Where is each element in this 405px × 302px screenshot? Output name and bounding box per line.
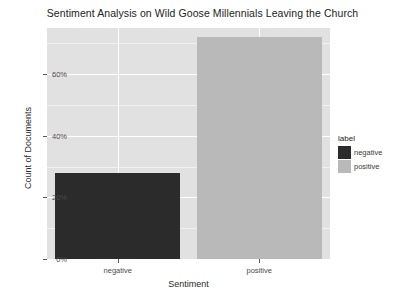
legend-swatch-negative [338, 146, 351, 159]
legend-item-positive[interactable]: positive [338, 159, 382, 173]
bar-positive[interactable] [197, 37, 322, 259]
chart-title: Sentiment Analysis on Wild Goose Millenn… [0, 7, 405, 19]
x-axis-title: Sentiment [47, 279, 330, 289]
legend-entries: negativepositive [338, 145, 382, 173]
y-tick-label: 20% [52, 193, 67, 202]
y-tick-mark [43, 136, 47, 137]
plot-panel [47, 28, 330, 259]
legend-label-negative: negative [354, 148, 382, 157]
legend-item-negative[interactable]: negative [338, 145, 382, 159]
y-tick-label: 40% [52, 131, 67, 140]
legend: label negativepositive [338, 134, 382, 173]
y-tick-mark [43, 197, 47, 198]
legend-title: label [338, 134, 382, 143]
y-tick-mark [43, 259, 47, 260]
x-tick-mark [118, 259, 119, 263]
legend-swatch-positive [338, 160, 351, 173]
x-tick-label-positive: positive [247, 266, 272, 275]
x-tick-label-negative: negative [104, 266, 132, 275]
y-axis-title: Count of Documents [23, 68, 33, 228]
y-tick-label: 60% [52, 70, 67, 79]
y-tick-label: 0% [56, 255, 67, 264]
bar-negative[interactable] [55, 173, 180, 259]
x-tick-mark [259, 259, 260, 263]
y-tick-mark [43, 74, 47, 75]
legend-label-positive: positive [354, 162, 379, 171]
sentiment-bar-chart: Sentiment Analysis on Wild Goose Millenn… [0, 0, 405, 302]
